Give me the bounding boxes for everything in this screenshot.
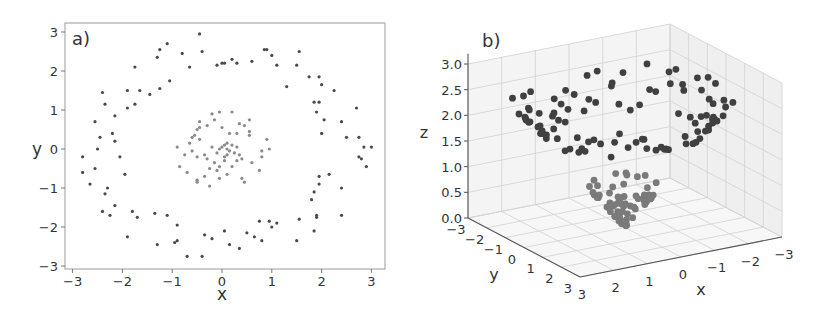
panel-b-3d-scatter: 3210−1−2−3−3−2−101233.02.52.01.51.00.50.… <box>410 0 821 316</box>
data-point <box>536 110 543 117</box>
data-point <box>93 120 96 123</box>
data-point <box>644 61 651 68</box>
x-tick-label: −1 <box>707 260 726 275</box>
data-point <box>103 192 106 195</box>
y-tick-label: −2 <box>39 220 58 235</box>
data-point <box>260 155 263 158</box>
data-point <box>313 101 316 104</box>
data-point <box>126 89 129 92</box>
data-point <box>245 231 248 234</box>
data-point <box>228 149 231 152</box>
data-point <box>516 111 523 118</box>
data-point <box>208 185 211 188</box>
data-point <box>166 42 169 45</box>
data-point <box>213 161 216 164</box>
data-point <box>223 159 226 162</box>
data-point <box>607 200 614 207</box>
data-point <box>268 147 271 150</box>
data-point <box>113 114 116 117</box>
data-point <box>166 214 169 217</box>
data-point <box>248 134 251 137</box>
z-tick-label: 1.5 <box>441 134 462 149</box>
data-point <box>203 233 206 236</box>
data-point <box>235 62 238 65</box>
data-point <box>585 138 592 145</box>
data-point <box>313 190 316 193</box>
data-point <box>712 80 719 87</box>
data-point <box>697 135 704 142</box>
data-point <box>235 132 238 135</box>
data-point <box>106 186 109 189</box>
data-point <box>275 222 278 225</box>
data-point <box>113 204 116 207</box>
data-point <box>370 146 373 149</box>
data-point <box>198 120 201 123</box>
data-point <box>111 132 114 135</box>
data-point <box>228 243 231 246</box>
data-point <box>223 229 226 232</box>
data-point <box>318 101 321 104</box>
data-point <box>679 81 686 88</box>
data-point <box>705 123 712 130</box>
data-point <box>225 173 228 176</box>
data-point <box>694 128 701 135</box>
data-point <box>333 89 336 92</box>
data-point <box>258 169 261 172</box>
data-point <box>178 165 181 168</box>
data-point <box>641 193 648 200</box>
data-point <box>680 87 687 94</box>
data-point <box>535 124 542 131</box>
data-point <box>537 130 544 137</box>
data-point <box>574 134 581 141</box>
data-point <box>215 64 218 67</box>
data-point <box>188 142 191 145</box>
data-point <box>103 103 106 106</box>
data-point <box>235 159 238 162</box>
data-point <box>522 114 529 121</box>
data-point <box>646 86 653 93</box>
data-point <box>721 97 728 104</box>
x-tick-label: −2 <box>741 254 760 269</box>
data-point <box>133 66 136 69</box>
data-point <box>243 124 246 127</box>
data-point <box>270 225 273 228</box>
data-point <box>201 255 204 258</box>
data-point <box>250 60 253 63</box>
3d-grid <box>468 24 782 277</box>
data-point <box>253 235 256 238</box>
x-axis-label: x <box>217 284 227 304</box>
data-point <box>270 54 273 57</box>
data-point <box>81 171 84 174</box>
data-point <box>203 175 206 178</box>
data-point <box>585 96 592 103</box>
data-point <box>243 181 246 184</box>
data-point <box>153 212 156 215</box>
data-point <box>260 149 263 152</box>
data-point <box>558 101 565 108</box>
data-point <box>206 124 209 127</box>
data-point <box>320 132 323 135</box>
y-tick-label: −1 <box>484 242 503 257</box>
y-tick-label: 2 <box>545 271 553 286</box>
data-point <box>223 155 226 158</box>
data-point <box>208 167 211 170</box>
data-point <box>181 52 184 55</box>
data-point <box>196 128 199 131</box>
data-point <box>191 136 194 139</box>
data-point <box>230 58 233 61</box>
data-point <box>644 184 651 191</box>
data-point <box>310 198 313 201</box>
data-point <box>268 220 271 223</box>
data-point <box>101 210 104 213</box>
data-point <box>186 171 189 174</box>
data-point <box>156 56 159 59</box>
data-point <box>220 126 223 129</box>
data-point <box>706 96 713 103</box>
x-tick-label: −3 <box>63 274 82 289</box>
data-point <box>133 103 136 106</box>
data-point <box>233 151 236 154</box>
data-point <box>612 170 619 177</box>
data-point <box>298 218 301 221</box>
data-point <box>720 112 727 119</box>
data-point <box>101 91 104 94</box>
